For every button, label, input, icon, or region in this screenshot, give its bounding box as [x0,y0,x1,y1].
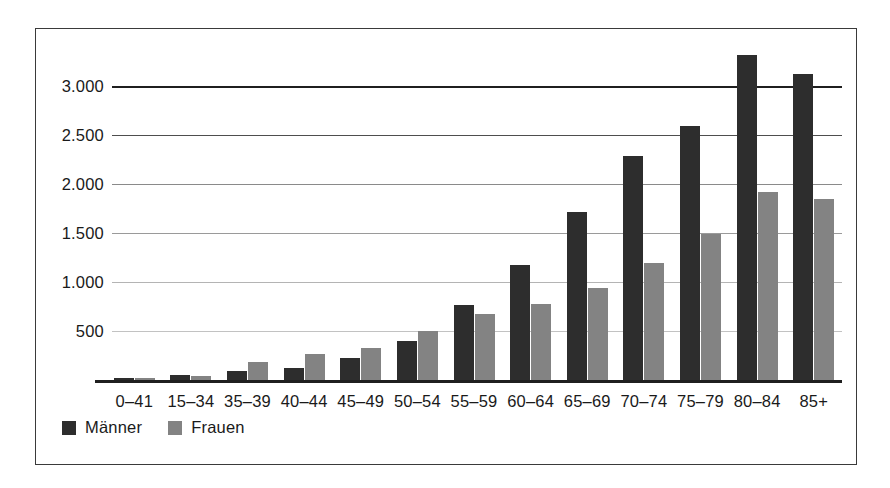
bar-maenner [340,358,360,380]
x-axis-tick-label: 45–49 [332,392,389,411]
x-axis-tick-label: 55–59 [446,392,503,411]
bars-layer: 0–4115–3435–3940–4445–4950–5455–5960–646… [0,0,890,488]
bar-frauen [701,234,721,380]
bar-frauen [135,378,155,380]
bar-maenner [737,55,757,380]
x-axis-tick-label: 65–69 [559,392,616,411]
bar-maenner [567,212,587,380]
bar-frauen [361,348,381,380]
bar-maenner [227,371,247,380]
bar-frauen [305,354,325,380]
bar-frauen [531,304,551,380]
x-axis-tick-label: 0–41 [106,392,163,411]
bar-maenner [510,265,530,380]
chart-figure: 3.0002.5002.0001.5001.000500 0–4115–3435… [0,0,890,488]
bar-frauen [588,288,608,380]
x-axis-tick-label: 35–39 [219,392,276,411]
bar-frauen [418,331,438,380]
bar-frauen [191,376,211,380]
x-axis-tick-label: 70–74 [616,392,673,411]
male-swatch-icon [62,421,76,435]
x-axis-tick-label: 75–79 [672,392,729,411]
bar-frauen [475,314,495,380]
legend-item-maenner[interactable]: Männer [62,418,142,437]
x-axis-tick-label: 60–64 [502,392,559,411]
bar-maenner [397,341,417,380]
bar-maenner [680,126,700,380]
bar-maenner [623,156,643,380]
legend-label-frauen: Frauen [191,418,244,437]
bar-maenner [114,378,134,380]
bar-maenner [454,305,474,380]
x-axis-tick-label: 15–34 [163,392,220,411]
bar-frauen [758,192,778,380]
x-axis-tick-label: 50–54 [389,392,446,411]
bar-frauen [248,362,268,380]
bar-maenner [793,74,813,380]
x-axis-tick-label: 85+ [785,392,842,411]
x-axis-tick-label: 40–44 [276,392,333,411]
bar-frauen [644,263,664,380]
female-swatch-icon [168,421,182,435]
bar-maenner [170,375,190,380]
legend-item-frauen[interactable]: Frauen [168,418,244,437]
bar-maenner [284,368,304,380]
bar-frauen [814,199,834,380]
chart-legend: Männer Frauen [62,418,245,437]
x-axis-tick-label: 80–84 [729,392,786,411]
legend-label-maenner: Männer [85,418,142,437]
